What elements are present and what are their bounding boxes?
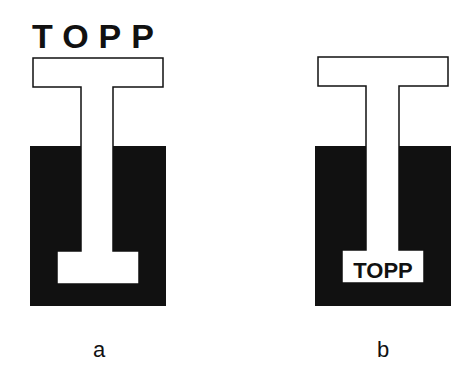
panel-a-base-fill bbox=[58, 252, 138, 283]
panel-b-stem-fill bbox=[367, 146, 398, 251]
panel-b-label: b bbox=[377, 337, 389, 362]
panel-a-label: a bbox=[93, 337, 106, 362]
diagram-canvas: TOPP a TOPP b bbox=[0, 0, 474, 376]
panel-b: TOPP b bbox=[315, 57, 451, 362]
panel-a-stem-fill bbox=[82, 146, 112, 252]
panel-b-inner-text: TOPP bbox=[353, 258, 413, 283]
panel-a: TOPP a bbox=[30, 17, 166, 362]
panel-a-title-text: TOPP bbox=[32, 17, 164, 55]
